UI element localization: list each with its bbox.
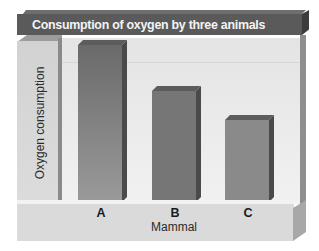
chart-title-banner-side: [302, 10, 309, 35]
bar-front-face: [78, 45, 122, 202]
back-panel-right-edge: [300, 35, 306, 207]
y-axis-label: Oxygen consumption: [33, 67, 47, 180]
bar-a: [78, 40, 127, 202]
category-label-a: A: [96, 206, 105, 220]
bar-c: [225, 115, 274, 202]
x-axis-label: Mammal: [151, 220, 197, 234]
category-label-c: C: [243, 206, 252, 220]
bar-side-face: [122, 40, 127, 202]
bar-side-face: [196, 86, 201, 202]
bar-b: [152, 86, 201, 202]
bar-side-face: [269, 115, 274, 202]
floor-side: [293, 200, 306, 241]
bar-front-face: [152, 91, 196, 202]
left-wall-edge: [58, 38, 62, 204]
category-label-b: B: [170, 206, 179, 220]
bar-front-face: [225, 120, 269, 202]
chart-title: Consumption of oxygen by three animals: [32, 17, 265, 32]
